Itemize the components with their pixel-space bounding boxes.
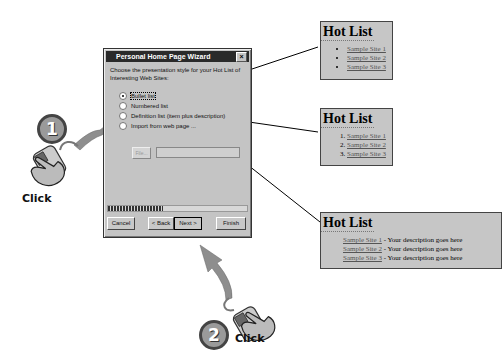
arrow-to-next-icon: [200, 245, 232, 300]
close-button[interactable]: ×: [236, 52, 247, 62]
preview-title: Hot List: [321, 214, 374, 232]
option-label: Numbered list: [131, 103, 168, 109]
step-2-badge: 2: [199, 320, 229, 350]
preview-title: Hot List: [321, 110, 374, 128]
cancel-button[interactable]: Cancel: [107, 217, 135, 230]
dialog-title: Personal Home Page Wizard: [116, 53, 210, 60]
numbered-items: Sample Site 1 Sample Site 2 Sample Site …: [321, 132, 392, 159]
preview-title: Hot List: [321, 23, 374, 41]
mouse-hand-icon-1: [24, 144, 71, 192]
wizard-progress-bar: [107, 205, 248, 212]
file-path-input[interactable]: [156, 147, 240, 158]
step-1-click-label: Click: [22, 192, 51, 205]
sample-site-link[interactable]: Sample Site 2: [343, 245, 382, 253]
definition-item: Sample Site 3 - Your description goes he…: [343, 254, 501, 263]
sample-site-link[interactable]: Sample Site 1: [343, 236, 382, 244]
option-label: Bullet list: [131, 93, 155, 99]
option-bullet-list[interactable]: Bullet list: [119, 92, 155, 101]
dialog-prompt: Choose the presentation style for your H…: [110, 66, 246, 82]
radio-import[interactable]: [119, 122, 127, 130]
back-button[interactable]: < Back: [148, 217, 174, 230]
definition-items: Sample Site 1 - Your description goes he…: [343, 236, 501, 263]
sample-site-link[interactable]: Sample Site 1: [347, 132, 386, 140]
sample-site-link[interactable]: Sample Site 2: [347, 141, 386, 149]
option-label: Import from web page ...: [131, 123, 196, 129]
preview-definition-list: Hot List Sample Site 1 - Your descriptio…: [320, 212, 502, 269]
definition-item: Sample Site 2 - Your description goes he…: [343, 245, 501, 254]
radio-bullet[interactable]: [119, 92, 127, 100]
option-numbered-list[interactable]: Numbered list: [119, 102, 168, 111]
progress-fill: [108, 206, 163, 211]
sample-site-link[interactable]: Sample Site 2: [347, 54, 386, 62]
preview-bullet-list: Hot List Sample Site 1 Sample Site 2 Sam…: [320, 21, 393, 80]
radio-definition[interactable]: [119, 112, 127, 120]
preview-numbered-list: Hot List Sample Site 1 Sample Site 2 Sam…: [320, 108, 393, 166]
definition-item: Sample Site 1 - Your description goes he…: [343, 236, 501, 245]
sample-site-link[interactable]: Sample Site 3: [347, 150, 386, 158]
dialog-titlebar: Personal Home Page Wizard ×: [106, 51, 249, 62]
file-button[interactable]: File...: [132, 147, 151, 159]
step-1-badge: 1: [37, 114, 67, 144]
bullet-items: Sample Site 1 Sample Site 2 Sample Site …: [321, 45, 392, 72]
step-2-click-label: Click: [235, 332, 264, 345]
sample-site-link[interactable]: Sample Site 3: [343, 254, 382, 262]
radio-numbered[interactable]: [119, 102, 127, 110]
sample-site-link[interactable]: Sample Site 3: [347, 63, 386, 71]
next-button[interactable]: Next >: [174, 217, 202, 230]
option-definition-list[interactable]: Definition list (item plus description): [119, 112, 225, 121]
option-import-web-page[interactable]: Import from web page ...: [119, 122, 196, 131]
option-label: Definition list (item plus description): [131, 113, 225, 119]
finish-button[interactable]: Finish: [216, 217, 246, 230]
sample-site-link[interactable]: Sample Site 1: [347, 45, 386, 53]
wizard-dialog: Personal Home Page Wizard × Choose the p…: [103, 48, 252, 238]
